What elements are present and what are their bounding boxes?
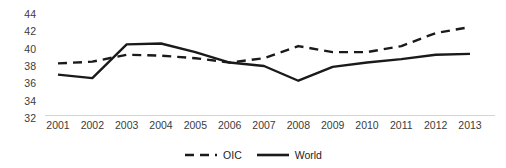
x-tick-label: 2010 — [355, 120, 378, 131]
solid-line-icon — [256, 150, 290, 160]
x-tick-label: 2008 — [287, 120, 310, 131]
dashed-line-icon — [184, 150, 218, 160]
x-tick-label: 2006 — [218, 120, 241, 131]
chart-legend: OIC World — [0, 145, 506, 165]
x-tick-label: 2012 — [424, 120, 447, 131]
line-chart: 44424038363432 2001200220032004200520062… — [0, 0, 506, 168]
legend-entry-oic: OIC — [184, 150, 242, 161]
x-tick-label: 2009 — [321, 120, 344, 131]
x-axis-tick-labels: 2001200220032004200520062007200820092010… — [45, 120, 496, 138]
x-tick-label: 2011 — [390, 120, 413, 131]
legend-label-oic: OIC — [223, 150, 242, 161]
x-tick-label: 2004 — [149, 120, 172, 131]
plot-area — [0, 0, 506, 168]
x-tick-label: 2001 — [46, 120, 69, 131]
x-tick-label: 2003 — [115, 120, 138, 131]
x-tick-label: 2007 — [252, 120, 275, 131]
legend-label-world: World — [295, 150, 322, 161]
series-line-world — [58, 43, 470, 80]
x-tick-label: 2002 — [81, 120, 104, 131]
x-tick-label: 2005 — [184, 120, 207, 131]
x-tick-label: 2013 — [458, 120, 481, 131]
legend-entry-world: World — [256, 150, 322, 161]
